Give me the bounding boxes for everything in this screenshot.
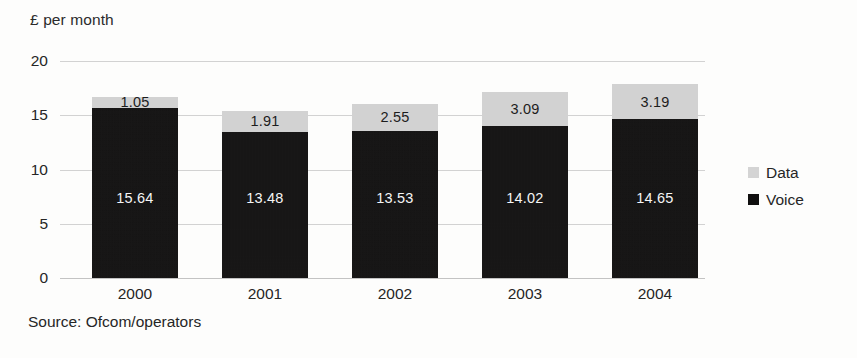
x-tick-label-2002: 2002 bbox=[352, 285, 438, 303]
bar-segment-voice-2004[interactable]: 14.65 bbox=[612, 119, 698, 278]
bar-group-2000[interactable]: 15.641.05 bbox=[92, 97, 178, 278]
bar-value-label-voice-2003: 14.02 bbox=[482, 191, 568, 206]
y-axis-tick-labels: 05101520 bbox=[0, 61, 48, 278]
bar-value-label-data-2001: 1.91 bbox=[250, 114, 279, 129]
y-tick-label-15: 15 bbox=[31, 107, 48, 123]
bar-value-label-data-2002: 2.55 bbox=[380, 110, 409, 125]
y-tick-label-0: 0 bbox=[39, 270, 48, 286]
bar-segment-voice-2003[interactable]: 14.02 bbox=[482, 126, 568, 278]
bar-segment-voice-2000[interactable]: 15.64 bbox=[92, 108, 178, 278]
gridline-0 bbox=[60, 278, 705, 279]
plot-area: 15.641.0513.481.9113.532.5514.023.0914.6… bbox=[60, 61, 705, 278]
x-axis-tick-labels: 20002001200220032004 bbox=[60, 285, 705, 309]
bar-segment-data-2004[interactable]: 3.19 bbox=[612, 84, 698, 119]
source-caption: Source: Ofcom/operators bbox=[28, 313, 201, 331]
bar-value-label-voice-2000: 15.64 bbox=[92, 191, 178, 206]
bar-group-2001[interactable]: 13.481.91 bbox=[222, 111, 308, 278]
legend-label-voice: Voice bbox=[766, 192, 804, 208]
chart-figure: £ per month 05101520 15.641.0513.481.911… bbox=[0, 0, 857, 358]
bar-value-label-voice-2002: 13.53 bbox=[352, 191, 438, 206]
legend-item-voice[interactable]: Voice bbox=[748, 186, 848, 213]
bar-group-2003[interactable]: 14.023.09 bbox=[482, 92, 568, 278]
bar-segment-data-2003[interactable]: 3.09 bbox=[482, 92, 568, 126]
bar-segment-voice-2002[interactable]: 13.53 bbox=[352, 131, 438, 278]
gridline-20 bbox=[60, 61, 705, 62]
bar-value-label-data-2000: 1.05 bbox=[120, 97, 149, 108]
bar-value-label-data-2004: 3.19 bbox=[640, 95, 669, 110]
x-tick-label-2000: 2000 bbox=[92, 285, 178, 303]
chart-legend: DataVoice bbox=[748, 159, 848, 213]
bar-value-label-voice-2004: 14.65 bbox=[612, 191, 698, 206]
bar-value-label-data-2003: 3.09 bbox=[510, 102, 539, 117]
x-tick-label-2004: 2004 bbox=[612, 285, 698, 303]
y-tick-label-5: 5 bbox=[39, 216, 48, 232]
y-tick-label-10: 10 bbox=[31, 162, 48, 178]
x-tick-label-2003: 2003 bbox=[482, 285, 568, 303]
bar-segment-data-2001[interactable]: 1.91 bbox=[222, 111, 308, 132]
bar-group-2004[interactable]: 14.653.19 bbox=[612, 84, 698, 278]
bar-segment-data-2000[interactable]: 1.05 bbox=[92, 97, 178, 108]
bar-segment-data-2002[interactable]: 2.55 bbox=[352, 104, 438, 132]
legend-item-data[interactable]: Data bbox=[748, 159, 848, 186]
bar-group-2002[interactable]: 13.532.55 bbox=[352, 104, 438, 278]
x-tick-label-2001: 2001 bbox=[222, 285, 308, 303]
bar-value-label-voice-2001: 13.48 bbox=[222, 191, 308, 206]
legend-label-data: Data bbox=[766, 165, 799, 181]
y-tick-label-20: 20 bbox=[31, 53, 48, 69]
y-axis-title: £ per month bbox=[30, 11, 114, 29]
legend-swatch-voice-icon bbox=[748, 194, 759, 205]
legend-swatch-data-icon bbox=[748, 167, 759, 178]
bar-segment-voice-2001[interactable]: 13.48 bbox=[222, 132, 308, 278]
